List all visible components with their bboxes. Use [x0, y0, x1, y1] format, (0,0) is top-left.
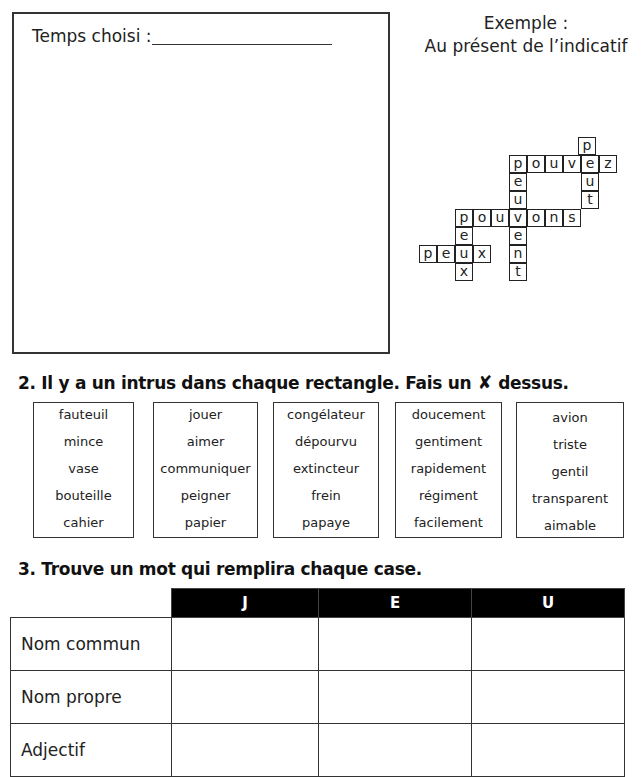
word-option[interactable]: transparent: [517, 491, 623, 506]
crossword-cell: o: [473, 209, 491, 227]
tense-label: Temps choisi :: [32, 26, 152, 46]
crossword-cell: o: [527, 209, 545, 227]
crossword-cell: u: [581, 173, 599, 191]
section-2-instruction: 2. Il y a un intrus dans chaque rectangl…: [18, 373, 471, 393]
word-option[interactable]: bouteille: [34, 488, 133, 503]
word-option[interactable]: gentil: [517, 464, 623, 479]
table-header-row: J E U: [11, 589, 625, 618]
intrus-box-1: fauteuil mince vase bouteille cahier: [33, 402, 134, 538]
word-option[interactable]: papier: [154, 515, 257, 530]
word-grid-table: J E U Nom commun Nom propre Adjectif: [10, 588, 625, 777]
answer-cell[interactable]: [172, 671, 319, 724]
answer-cell[interactable]: [472, 724, 625, 777]
crossword-cell: u: [491, 209, 509, 227]
crossword-cell: v: [509, 209, 527, 227]
table-row: Nom propre: [11, 671, 625, 724]
word-option[interactable]: rapidement: [396, 461, 501, 476]
word-option[interactable]: extincteur: [274, 461, 378, 476]
word-option[interactable]: papaye: [274, 515, 378, 530]
word-option[interactable]: jouer: [154, 407, 257, 422]
section-2-instruction-end: dessus.: [498, 373, 569, 393]
column-header-j: J: [172, 589, 319, 618]
intrus-box-2: jouer aimer communiquer peigner papier: [153, 402, 258, 538]
crossword-cell: u: [545, 155, 563, 173]
answer-cell[interactable]: [172, 618, 319, 671]
word-option[interactable]: dépourvu: [274, 434, 378, 449]
answer-cell[interactable]: [319, 618, 472, 671]
row-label-adjectif: Adjectif: [11, 724, 172, 777]
tense-answer-line[interactable]: [152, 44, 332, 45]
crossword-cell: n: [509, 245, 527, 263]
crossword-cell: p: [455, 209, 473, 227]
word-option[interactable]: facilement: [396, 515, 501, 530]
section-2-title: 2. Il y a un intrus dans chaque rectangl…: [18, 371, 569, 393]
crossword-cell: x: [455, 263, 473, 281]
example-tense: Au présent de l’indicatif: [410, 35, 642, 58]
crossword-cell: u: [455, 245, 473, 263]
crossword-cell: z: [599, 155, 617, 173]
row-label-nom-commun: Nom commun: [11, 618, 172, 671]
word-option[interactable]: aimer: [154, 434, 257, 449]
word-option[interactable]: triste: [517, 437, 623, 452]
crossword-cell: o: [527, 155, 545, 173]
section-3-title: 3. Trouve un mot qui remplira chaque cas…: [18, 559, 422, 579]
table-row: Nom commun: [11, 618, 625, 671]
word-option[interactable]: fauteuil: [34, 407, 133, 422]
crossword-cell: p: [578, 137, 596, 155]
word-option[interactable]: communiquer: [154, 461, 257, 476]
column-header-u: U: [472, 589, 625, 618]
answer-cell[interactable]: [472, 618, 625, 671]
example-caption: Exemple : Au présent de l’indicatif: [410, 12, 642, 58]
crossword-cell: s: [563, 209, 581, 227]
x-mark-icon: ✘: [478, 371, 492, 393]
word-option[interactable]: congélateur: [274, 407, 378, 422]
word-option[interactable]: aimable: [517, 518, 623, 533]
intrus-box-4: doucement gentiment rapidement régiment …: [395, 402, 502, 538]
crossword-cell: p: [509, 155, 527, 173]
answer-cell[interactable]: [172, 724, 319, 777]
word-option[interactable]: peigner: [154, 488, 257, 503]
crossword-cell: e: [455, 227, 473, 245]
word-option[interactable]: doucement: [396, 407, 501, 422]
crossword-cell: e: [509, 227, 527, 245]
answer-cell[interactable]: [319, 671, 472, 724]
intrus-box-3: congélateur dépourvu extincteur frein pa…: [273, 402, 379, 538]
column-header-e: E: [319, 589, 472, 618]
word-option[interactable]: frein: [274, 488, 378, 503]
crossword-cell: e: [509, 173, 527, 191]
row-label-nom-propre: Nom propre: [11, 671, 172, 724]
crossword-cell: p: [419, 245, 437, 263]
word-option[interactable]: avion: [517, 410, 623, 425]
word-option[interactable]: mince: [34, 434, 133, 449]
word-option[interactable]: cahier: [34, 515, 133, 530]
crossword-cell: t: [509, 263, 527, 281]
crossword-cell: u: [509, 191, 527, 209]
word-option[interactable]: gentiment: [396, 434, 501, 449]
crossword-cell: n: [545, 209, 563, 227]
crossword-cell: e: [437, 245, 455, 263]
answer-cell[interactable]: [319, 724, 472, 777]
crossword-cell: t: [581, 191, 599, 209]
intrus-box-5: avion triste gentil transparent aimable: [516, 402, 624, 538]
tense-answer-box[interactable]: [12, 12, 390, 354]
word-option[interactable]: vase: [34, 461, 133, 476]
example-title: Exemple :: [410, 12, 642, 35]
header-blank: [11, 589, 172, 618]
answer-cell[interactable]: [472, 671, 625, 724]
word-option[interactable]: régiment: [396, 488, 501, 503]
table-row: Adjectif: [11, 724, 625, 777]
crossword-cell: x: [473, 245, 491, 263]
crossword-cell: v: [563, 155, 581, 173]
crossword-cell: e: [581, 155, 599, 173]
